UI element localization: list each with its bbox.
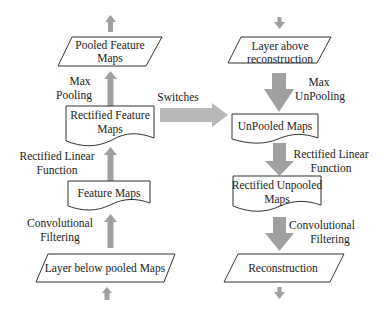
node-pooled-feature-maps: Pooled Feature Maps (58, 37, 162, 66)
node-rectified-label-2: Maps (97, 123, 123, 136)
node-feature-label: Feature Maps (78, 187, 141, 200)
node-above-label-2: reconstruction (247, 53, 313, 65)
edge-label-unpool-1: Max (308, 76, 329, 88)
node-rectified-label-1: Rectified Feature (70, 109, 150, 121)
edge-label-rlf-left-2: Function (37, 164, 78, 176)
node-pooled-label-1: Pooled Feature (75, 39, 144, 51)
edge-label-max-pooling-1: Max (69, 75, 90, 87)
arrow-conv-filtering-left (104, 214, 117, 248)
switches-arrow (160, 103, 228, 127)
node-rectified-unpooled-maps: Rectified Unpooled Maps (232, 176, 323, 211)
node-rect-unpooled-label-1: Rectified Unpooled (232, 179, 323, 192)
node-reconstruction: Reconstruction (224, 254, 344, 282)
edge-label-conv-right-1: Convolutional (289, 219, 355, 231)
arrow-down-top-right (274, 17, 285, 29)
node-feature-maps: Feature Maps (68, 181, 150, 210)
node-pooled-label-2: Maps (97, 52, 123, 65)
arrow-up-bottom-left (102, 287, 112, 300)
edge-label-rlf-right-2: Function (311, 162, 352, 174)
edge-label-rlf-left-1: Rectified Linear (19, 150, 94, 162)
deconvnet-diagram: Pooled Feature Maps Max Pooling Rectifie… (0, 0, 385, 316)
node-layer-below: Layer below pooled Maps (36, 254, 175, 282)
arrow-max-pooling (104, 71, 117, 106)
arrow-max-unpooling (264, 73, 294, 112)
arrow-rectified-linear-left (104, 147, 117, 182)
node-rectified-feature-maps: Rectified Feature Maps (66, 106, 154, 146)
node-unpooled-maps: UnPooled Maps (232, 114, 318, 143)
node-layer-above: Layer above reconstruction (228, 37, 331, 65)
edge-label-conv-left-1: Convolutional (27, 217, 93, 229)
arrow-rectified-linear-right (265, 143, 294, 176)
edge-label-max-pooling-2: Pooling (56, 89, 92, 102)
node-unpooled-label: UnPooled Maps (238, 120, 313, 133)
arrow-up-top-left (105, 15, 116, 32)
node-rect-unpooled-label-2: Maps (264, 193, 290, 206)
edge-label-rlf-right-1: Rectified Linear (293, 148, 368, 160)
edge-label-conv-right-2: Filtering (310, 233, 350, 246)
node-below-label: Layer below pooled Maps (45, 262, 166, 275)
edge-label-conv-left-2: Filtering (40, 231, 80, 244)
edge-label-unpool-2: UnPooling (295, 90, 345, 103)
switches-label: Switches (157, 91, 199, 103)
node-recon-label: Reconstruction (248, 262, 318, 274)
arrow-down-bottom-right (274, 287, 285, 299)
node-above-label-1: Layer above (251, 40, 308, 53)
